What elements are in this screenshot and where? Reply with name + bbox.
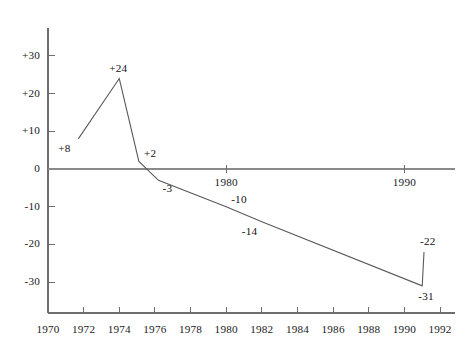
- x-tick-label: 1972: [67, 324, 101, 335]
- y-tick-label: +10: [6, 125, 40, 136]
- x-tick-label: 1980: [209, 324, 243, 335]
- data-point-label: -10: [231, 194, 247, 205]
- line-chart: +30+20+100-10-20-30 19701972197419761978…: [0, 0, 469, 355]
- inline-year-label: 1990: [387, 177, 421, 188]
- x-tick-label: 1986: [316, 324, 350, 335]
- x-tick-label: 1976: [138, 324, 172, 335]
- x-tick-label: 1982: [245, 324, 279, 335]
- data-point-label: +24: [109, 63, 127, 74]
- data-point-label: -31: [418, 291, 434, 302]
- y-tick-label: +30: [6, 50, 40, 61]
- x-tick-label: 1984: [280, 324, 314, 335]
- y-tick-label: -30: [6, 276, 40, 287]
- x-tick-label: 1970: [31, 324, 65, 335]
- tick-marks-group: [48, 56, 440, 313]
- x-tick-label: 1978: [174, 324, 208, 335]
- data-series-group: [78, 79, 424, 286]
- x-tick-label: 1974: [102, 324, 136, 335]
- data-point-label: -14: [242, 226, 258, 237]
- y-tick-label: +20: [6, 88, 40, 99]
- y-tick-label: -20: [6, 238, 40, 249]
- data-point-label: -22: [420, 236, 436, 247]
- y-tick-label: -10: [6, 201, 40, 212]
- x-tick-label: 1990: [387, 324, 421, 335]
- inline-year-label: 1980: [209, 177, 243, 188]
- data-point-label: +2: [144, 148, 156, 159]
- series-line-balance: [78, 79, 424, 286]
- x-tick-label: 1992: [423, 324, 457, 335]
- data-point-label: +8: [58, 143, 70, 154]
- y-tick-label: 0: [6, 163, 40, 174]
- data-point-label: -3: [162, 183, 172, 194]
- x-tick-label: 1988: [352, 324, 386, 335]
